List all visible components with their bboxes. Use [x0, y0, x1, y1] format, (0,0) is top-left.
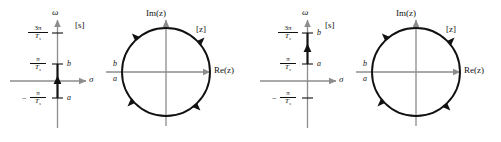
z-circle-arrowhead	[380, 31, 389, 40]
z-plane-re-label: Re(z)	[464, 66, 484, 75]
z-plane-im-label: Im(z)	[396, 9, 416, 18]
figure-root: ω σ [s] 3π Ts π Ts b − π Ts a	[0, 0, 501, 142]
z-circle-label-a: a	[363, 75, 367, 83]
panel-right: ω σ [s] 3π Ts b π Ts a − π Ts	[250, 0, 500, 142]
z-plane-re-label: Re(z)	[214, 66, 234, 75]
z-circle-label-a: a	[113, 75, 117, 83]
panel-left: ω σ [s] 3π Ts π Ts b − π Ts a	[0, 0, 250, 142]
z-plane-left-axes	[0, 0, 250, 142]
z-plane-label: [z]	[446, 25, 456, 34]
z-circle-label-b: b	[113, 60, 117, 68]
z-plane-label: [z]	[196, 25, 206, 34]
z-circle-label-b: b	[363, 60, 367, 68]
z-plane-right-axes	[250, 0, 500, 142]
z-circle-arrowhead	[130, 31, 139, 40]
z-plane-im-label: Im(z)	[146, 9, 166, 18]
